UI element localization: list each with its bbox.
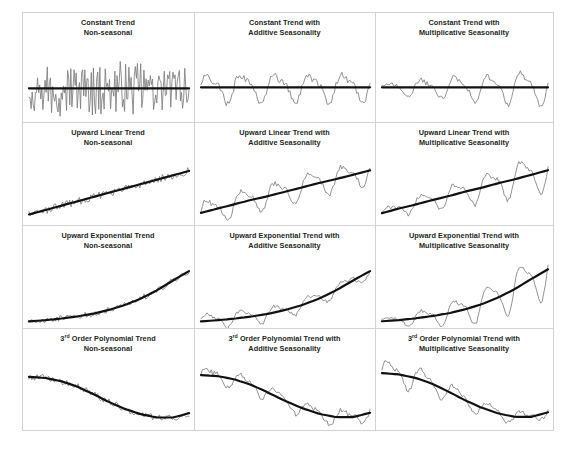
- trend-line: [28, 376, 188, 417]
- title-line-1: Upward Exponential Trend with: [229, 231, 339, 240]
- trend-line: [28, 170, 188, 214]
- title-line-1: Upward Exponential Trend: [61, 231, 154, 240]
- panel-linear-nonseasonal: Upward Linear TrendNon-seasonal: [22, 122, 195, 226]
- panel-linear-additive: Upward Linear Trend withAdditive Seasona…: [194, 122, 376, 226]
- title-line-1: Constant Trend with: [428, 18, 499, 27]
- panel-exponential-nonseasonal: Upward Exponential TrendNon-seasonal: [22, 225, 195, 329]
- panel-title: Upward Linear Trend withMultiplicative S…: [376, 128, 553, 149]
- series-line: [28, 272, 188, 322]
- panel-linear-multiplicative: Upward Linear Trend withMultiplicative S…: [375, 122, 554, 226]
- title-line-2: Non-seasonal: [84, 344, 132, 353]
- title-line-2: Additive Seasonality: [248, 138, 320, 147]
- title-line-2: Non-seasonal: [84, 241, 132, 250]
- panel-constant-multiplicative: Constant Trend withMultiplicative Season…: [375, 12, 554, 123]
- title-line-2: Non-seasonal: [84, 28, 132, 37]
- panel-exponential-multiplicative: Upward Exponential Trend withMultiplicat…: [375, 225, 554, 329]
- trend-line: [381, 373, 547, 417]
- title-line-2: Multiplicative Seasonality: [419, 241, 509, 250]
- trend-line: [28, 271, 188, 321]
- series-line: [381, 70, 547, 106]
- title-line-2: Multiplicative Seasonality: [419, 344, 509, 353]
- title-line-1: Upward Linear Trend with: [239, 128, 329, 137]
- panel-title: Constant TrendNon-seasonal: [23, 18, 194, 39]
- title-line-1: Upward Linear Trend: [71, 128, 145, 137]
- panel-title: Upward Linear TrendNon-seasonal: [23, 128, 194, 149]
- trend-line: [381, 170, 547, 213]
- panel-title: Upward Exponential Trend withMultiplicat…: [376, 231, 553, 252]
- panel-constant-nonseasonal: Constant TrendNon-seasonal: [22, 12, 195, 123]
- panel-title: Upward Exponential TrendNon-seasonal: [23, 231, 194, 252]
- trend-seasonality-figure: Constant TrendNon-seasonal Constant Tren…: [22, 12, 553, 430]
- panel-polynomial-nonseasonal: 3rd Order Polynomial TrendNon-seasonal: [22, 328, 195, 431]
- trend-line: [200, 375, 369, 417]
- panel-title: Upward Linear Trend withAdditive Seasona…: [195, 128, 375, 149]
- title-line-2: Multiplicative Seasonality: [419, 138, 509, 147]
- title-line-2: Additive Seasonality: [248, 241, 320, 250]
- title-line-2: Additive Seasonality: [248, 28, 320, 37]
- panel-title: Constant Trend withAdditive Seasonality: [195, 18, 375, 39]
- panel-constant-additive: Constant Trend withAdditive Seasonality: [194, 12, 376, 123]
- title-line-2: Multiplicative Seasonality: [419, 28, 509, 37]
- title-line-1: Upward Exponential Trend with: [409, 231, 519, 240]
- panel-title: 3rd Order Polynomial Trend withAdditive …: [195, 334, 375, 355]
- title-line-1-rest: Order Polynomial Trend with: [238, 334, 341, 343]
- trend-line: [200, 170, 369, 213]
- series-line: [200, 165, 369, 220]
- title-line-1-rest: Order Polynomial Trend with: [417, 334, 520, 343]
- trend-line: [381, 269, 547, 321]
- series-line: [381, 360, 547, 422]
- panel-title: 3rd Order Polynomial TrendNon-seasonal: [23, 334, 194, 355]
- title-line-2: Non-seasonal: [84, 138, 132, 147]
- panel-grid: Constant TrendNon-seasonal Constant Tren…: [22, 12, 553, 430]
- panel-exponential-additive: Upward Exponential Trend withAdditive Se…: [194, 225, 376, 329]
- trend-line: [200, 271, 369, 321]
- title-line-1: Constant Trend with: [249, 18, 320, 27]
- panel-title: Constant Trend withMultiplicative Season…: [376, 18, 553, 39]
- series-line: [28, 374, 188, 420]
- title-line-2: Additive Seasonality: [248, 344, 320, 353]
- panel-polynomial-additive: 3rd Order Polynomial Trend withAdditive …: [194, 328, 376, 431]
- panel-polynomial-multiplicative: 3rd Order Polynomial Trend withMultiplic…: [375, 328, 554, 431]
- panel-title: 3rd Order Polynomial Trend withMultiplic…: [376, 334, 553, 355]
- title-line-1: Constant Trend: [81, 18, 135, 27]
- series-line: [381, 161, 547, 216]
- panel-title: Upward Exponential Trend withAdditive Se…: [195, 231, 375, 252]
- title-line-1: Upward Linear Trend with: [419, 128, 509, 137]
- series-line: [381, 265, 547, 326]
- title-line-1-rest: Order Polynomial Trend: [70, 334, 156, 343]
- series-line: [200, 72, 369, 105]
